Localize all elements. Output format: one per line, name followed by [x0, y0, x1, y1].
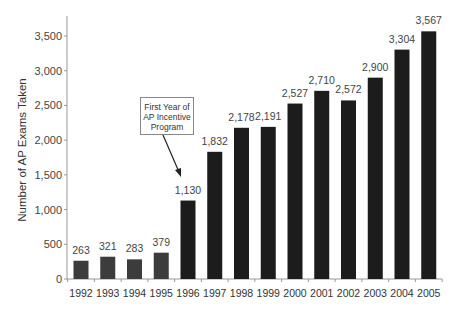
value-label: 263 — [72, 244, 90, 256]
y-axis: 05001,0001,5002,0002,5003,0003,500 — [34, 16, 67, 285]
bar-1997 — [207, 152, 222, 279]
x-tick-label: 1994 — [123, 287, 147, 299]
x-axis: 1992199319941995199619971998199920002001… — [67, 279, 442, 299]
x-tick-label: 1992 — [69, 287, 93, 299]
x-tick-label: 2001 — [310, 287, 334, 299]
bar-2005 — [421, 31, 436, 279]
value-label: 2,900 — [362, 61, 388, 73]
bar-2003 — [368, 78, 383, 279]
value-label: 1,130 — [175, 184, 201, 196]
y-tick-label: 3,000 — [34, 65, 62, 77]
y-axis-label: Number of AP Exams Taken — [16, 78, 28, 221]
bar-1993 — [100, 257, 115, 279]
value-labels: 2633212833791,1301,8322,1782,1912,5272,7… — [72, 14, 442, 255]
bar-1999 — [261, 127, 276, 279]
x-tick-label: 1997 — [203, 287, 227, 299]
value-label: 1,832 — [202, 135, 228, 147]
value-label: 3,567 — [416, 14, 442, 26]
bar-1995 — [154, 253, 169, 279]
bar-2001 — [314, 91, 329, 279]
annotation-line-1: First Year of — [141, 102, 193, 112]
bar-1994 — [127, 259, 142, 279]
x-tick-label: 1995 — [150, 287, 174, 299]
bar-1992 — [74, 261, 89, 279]
value-label: 2,191 — [255, 110, 281, 122]
bar-2004 — [395, 50, 410, 279]
bar-1998 — [234, 128, 249, 279]
value-label: 3,304 — [389, 33, 415, 45]
annotation-arrow — [163, 135, 181, 177]
x-tick-label: 2002 — [337, 287, 361, 299]
x-tick-label: 1993 — [96, 287, 120, 299]
value-label: 379 — [152, 236, 170, 248]
bar-1996 — [181, 201, 196, 279]
y-tick-label: 1,500 — [34, 169, 62, 181]
bar-chart: 05001,0001,5002,0002,5003,0003,500 19921… — [0, 0, 460, 310]
y-tick-label: 1,000 — [34, 204, 62, 216]
value-label: 2,527 — [282, 87, 308, 99]
x-tick-label: 1998 — [230, 287, 254, 299]
y-tick-label: 3,500 — [34, 30, 62, 42]
value-label: 2,178 — [228, 111, 254, 123]
x-tick-label: 2004 — [390, 287, 414, 299]
y-tick-label: 2,500 — [34, 99, 62, 111]
value-label: 321 — [99, 240, 117, 252]
x-tick-label: 2003 — [364, 287, 388, 299]
x-tick-label: 1999 — [257, 287, 281, 299]
x-tick-label: 1996 — [176, 287, 200, 299]
bar-2002 — [341, 100, 356, 279]
value-label: 2,710 — [309, 74, 335, 86]
y-tick-label: 500 — [44, 238, 62, 250]
annotation-box: First Year of AP Incentive Program — [140, 97, 194, 135]
bar-2000 — [288, 104, 303, 279]
value-label: 283 — [126, 242, 144, 254]
annotation-line-2: AP Incentive — [141, 112, 193, 122]
annotation-line-3: Program — [141, 122, 193, 132]
y-tick-label: 0 — [56, 273, 62, 285]
x-tick-label: 2000 — [283, 287, 307, 299]
x-tick-label: 2005 — [417, 287, 441, 299]
y-tick-label: 2,000 — [34, 134, 62, 146]
value-label: 2,572 — [335, 83, 361, 95]
